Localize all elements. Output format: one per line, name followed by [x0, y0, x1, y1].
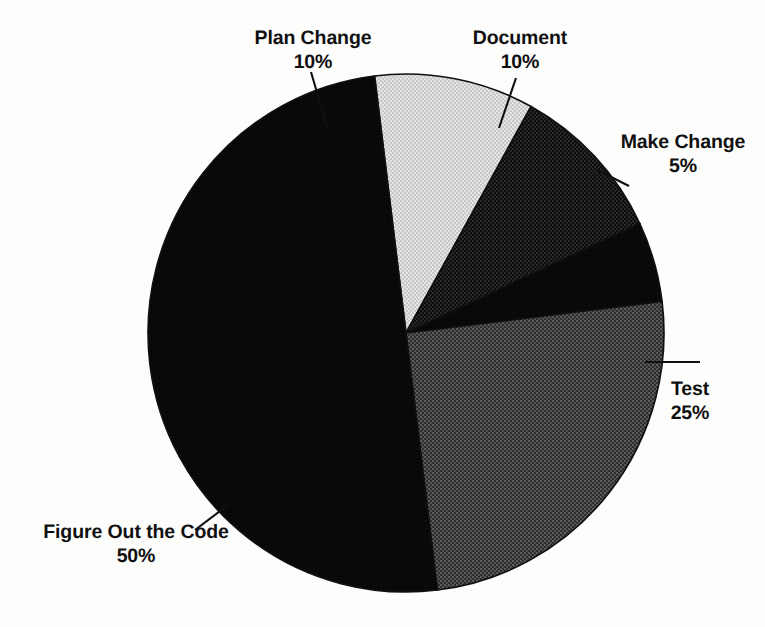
pie-slice-test: [406, 301, 664, 590]
pie-label-plan-change-percent: 10%: [228, 51, 398, 75]
pie-wedge-group: [148, 74, 664, 592]
pie-label-make-change: Make Change 5%: [603, 131, 763, 179]
pie-chart-figure: Plan Change 10% Document 10% Make Change…: [0, 0, 765, 627]
pie-label-test: Test 25%: [638, 378, 742, 426]
pie-label-document-percent: 10%: [440, 51, 600, 75]
pie-label-figure-out-the-code: Figure Out the Code 50%: [16, 521, 256, 569]
pie-label-plan-change-name: Plan Change: [228, 27, 398, 51]
pie-label-test-percent: 25%: [638, 402, 742, 426]
pie-label-make-change-name: Make Change: [603, 131, 763, 155]
pie-label-make-change-percent: 5%: [603, 155, 763, 179]
pie-label-document: Document 10%: [440, 27, 600, 75]
pie-label-plan-change: Plan Change 10%: [228, 27, 398, 75]
pie-label-figure-out-the-code-percent: 50%: [16, 545, 256, 569]
pie-label-document-name: Document: [440, 27, 600, 51]
pie-label-figure-out-the-code-name: Figure Out the Code: [16, 521, 256, 545]
pie-label-test-name: Test: [638, 378, 742, 402]
